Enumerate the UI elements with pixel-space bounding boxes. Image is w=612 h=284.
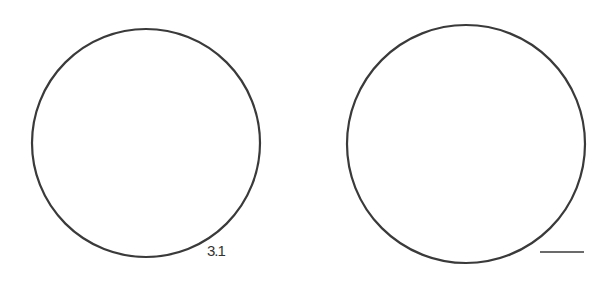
right-circle	[347, 25, 585, 263]
figure-canvas: 3.1	[0, 0, 612, 284]
figure-label: 3.1	[207, 242, 226, 259]
left-circle	[32, 29, 260, 257]
